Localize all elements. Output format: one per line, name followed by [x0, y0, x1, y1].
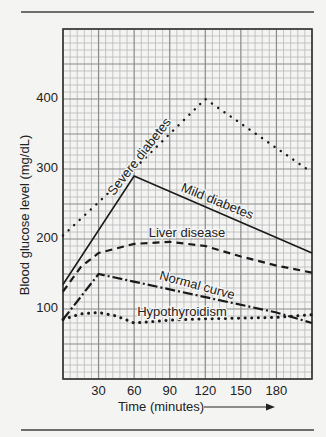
y-tick-label: 400 — [36, 90, 58, 105]
y-axis-title: Blood glucose level (mg/dL) — [17, 135, 32, 295]
x-axis-ticks: 306090120150180 — [91, 383, 287, 398]
x-tick-label: 30 — [91, 383, 105, 398]
x-tick-label: 60 — [127, 383, 141, 398]
x-axis-title: Time (minutes) — [118, 399, 204, 414]
glucose-tolerance-chart: Severe diabetesMild diabetesLiver diseas… — [0, 0, 326, 437]
grid-major — [63, 29, 312, 379]
x-tick-label: 90 — [162, 383, 176, 398]
y-tick-label: 200 — [36, 230, 58, 245]
x-axis-arrow-icon — [204, 404, 275, 411]
series-label-liver-disease: Liver disease — [149, 225, 226, 240]
series-label-hypothyroidism: Hypothyroidism — [137, 304, 227, 319]
y-tick-label: 100 — [36, 300, 58, 315]
x-tick-label: 180 — [266, 383, 288, 398]
x-tick-label: 120 — [194, 383, 216, 398]
series-line-severe-diabetes — [63, 99, 312, 236]
y-axis-ticks: 100200300400 — [36, 90, 58, 315]
y-tick-label: 300 — [36, 160, 58, 175]
x-tick-label: 150 — [230, 383, 252, 398]
